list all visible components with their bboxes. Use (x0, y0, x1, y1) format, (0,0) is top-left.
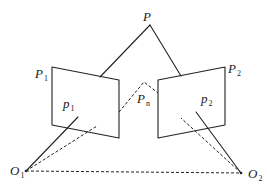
label-P2: P2 (228, 62, 241, 78)
label-p2-sub: 2 (209, 99, 213, 108)
label-p1-main: p (63, 96, 70, 111)
dashed-ray-o2 (181, 118, 241, 173)
label-O1-sub: 1 (20, 171, 24, 180)
label-p1-sub: 1 (71, 104, 75, 113)
label-O2-sub: 2 (258, 174, 262, 183)
label-O1-main: O (10, 163, 19, 178)
label-P: P (143, 10, 151, 23)
ray-p-to-plane-1 (100, 25, 150, 77)
label-P-main: P (143, 9, 151, 24)
ray-o2-p2 (196, 112, 241, 173)
label-O1: O1 (10, 164, 24, 180)
label-P1: P1 (35, 67, 48, 83)
dashed-ray-o1 (26, 126, 97, 171)
label-O2-main: O (248, 166, 257, 181)
label-P2-sub: 2 (237, 69, 241, 78)
label-Pn-sub: n (146, 99, 150, 108)
o2-point (240, 172, 243, 175)
o1-point (25, 170, 28, 173)
label-P2-main: P (228, 61, 236, 76)
label-Pn-main: P (137, 91, 145, 106)
label-p2: p2 (201, 92, 213, 108)
baseline-o1-o2 (26, 171, 241, 173)
epipolar-diagram (0, 0, 267, 189)
label-P1-sub: 1 (44, 74, 48, 83)
label-O2: O2 (248, 167, 262, 183)
label-P1-main: P (35, 66, 43, 81)
label-p1: p1 (63, 97, 75, 113)
label-p2-main: p (201, 91, 208, 106)
label-Pn: Pn (137, 92, 150, 108)
ray-p-to-plane-2 (150, 25, 181, 76)
